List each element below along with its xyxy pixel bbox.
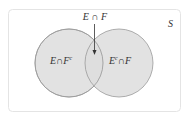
f-only-post: ∩F (118, 55, 132, 66)
f-only-pre: E (108, 55, 115, 66)
venn-diagram: S E ∩ F E∩Fc Ec∩F (0, 0, 191, 120)
universe-label: S (168, 18, 173, 29)
e-only-main: E∩F (49, 55, 70, 66)
intersection-label: E ∩ F (82, 11, 108, 22)
e-only-sup: c (69, 55, 72, 61)
f-only-label: Ec∩F (108, 55, 132, 66)
e-only-label: E∩Fc (49, 55, 72, 66)
